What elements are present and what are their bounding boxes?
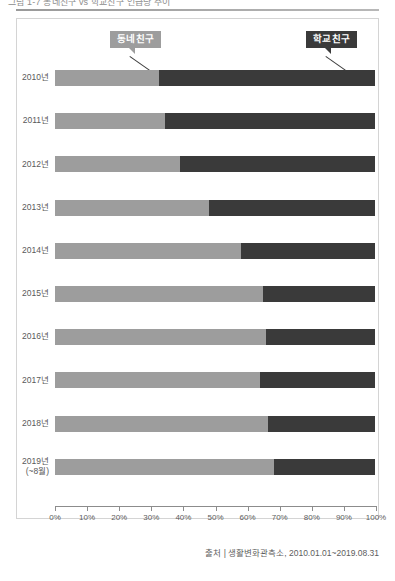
axis-tick [151, 506, 152, 511]
axis-tick [216, 506, 217, 511]
axis-tick [87, 506, 88, 511]
axis-tick [344, 506, 345, 511]
row-label-2012: 2012년 [17, 160, 49, 170]
bar-segment-school [180, 156, 375, 172]
chart-container: 동네친구 학교친구 2010년2011년2012년2013년2014년2015년… [16, 18, 379, 519]
axis-tick [55, 506, 56, 511]
bar-segment-neighbor [55, 113, 165, 129]
row-label-year: 2010년 [22, 72, 49, 82]
row-label-2013: 2013년 [17, 203, 49, 213]
row-label-2015: 2015년 [17, 289, 49, 299]
table-row: 2018년 [17, 416, 378, 432]
bar-segment-school [266, 329, 375, 345]
axis-tick-label: 60% [240, 513, 256, 522]
stacked-bar [55, 372, 375, 388]
row-label-year: 2012년 [22, 159, 49, 169]
axis-tick-label: 10% [79, 513, 95, 522]
row-label-sublabel: (~8월) [17, 467, 49, 477]
table-row: 2014년 [17, 243, 378, 259]
bar-segment-school [241, 243, 375, 259]
row-label-year: 2014년 [22, 245, 49, 255]
table-row: 2013년 [17, 200, 378, 216]
header-divider [16, 9, 379, 11]
axis-tick-label: 20% [111, 513, 127, 522]
stacked-bar [55, 70, 375, 86]
bar-segment-neighbor [55, 459, 274, 475]
top-heading-strip: 그림 1-7 동네친구 vs 학교친구 언급량 추이 [0, 0, 395, 6]
row-label-2010: 2010년 [17, 73, 49, 83]
row-label-year: 2019년 [22, 456, 49, 466]
axis-tick-label: 90% [336, 513, 352, 522]
table-row: 2019년(~8월) [17, 459, 378, 475]
row-label-year: 2017년 [22, 375, 49, 385]
legend-school-label: 학교친구 [313, 33, 350, 44]
bar-segment-school [165, 113, 375, 129]
table-row: 2017년 [17, 372, 378, 388]
stacked-bar [55, 286, 375, 302]
axis-tick [312, 506, 313, 511]
bar-segment-neighbor [55, 372, 260, 388]
bar-segment-neighbor [55, 156, 180, 172]
legend-neighbor-tail-icon [128, 47, 135, 54]
row-label-2017: 2017년 [17, 376, 49, 386]
axis-tick-label: 40% [175, 513, 191, 522]
bar-segment-neighbor [55, 70, 159, 86]
row-label-2011: 2011년 [17, 116, 49, 126]
table-row: 2016년 [17, 329, 378, 345]
bar-segment-neighbor [55, 286, 263, 302]
axis-tick [119, 506, 120, 511]
stacked-bar [55, 459, 375, 475]
row-label-2018: 2018년 [17, 419, 49, 429]
bar-segment-neighbor [55, 416, 268, 432]
bar-segment-school [209, 200, 375, 216]
stacked-bar [55, 200, 375, 216]
bar-segment-school [263, 286, 375, 302]
axis-tick [280, 506, 281, 511]
axis-tick-label: 100% [366, 513, 386, 522]
bar-segment-neighbor [55, 329, 266, 345]
row-label-year: 2016년 [22, 331, 49, 341]
bar-segment-neighbor [55, 243, 241, 259]
source-note: 출처 | 생활변화관측소, 2010.01.01~2019.08.31 [205, 546, 379, 558]
bar-segment-school [159, 70, 375, 86]
bar-segment-school [260, 372, 375, 388]
legend-school-friend: 학교친구 [306, 31, 357, 48]
axis-tick [183, 506, 184, 511]
axis-tick-label: 0% [49, 513, 61, 522]
row-label-2019: 2019년(~8월) [17, 457, 49, 477]
stacked-bar [55, 243, 375, 259]
stacked-bar [55, 329, 375, 345]
table-row: 2010년 [17, 70, 378, 86]
axis-tick [376, 506, 377, 511]
bar-segment-school [274, 459, 375, 475]
stacked-bar [55, 156, 375, 172]
row-label-year: 2013년 [22, 202, 49, 212]
row-label-year: 2018년 [22, 418, 49, 428]
table-row: 2011년 [17, 113, 378, 129]
legend-neighbor-label: 동네친구 [117, 33, 154, 44]
row-label-year: 2015년 [22, 288, 49, 298]
table-row: 2015년 [17, 286, 378, 302]
legend-neighbor-friend: 동네친구 [110, 31, 161, 48]
axis-tick [248, 506, 249, 511]
stacked-bar [55, 113, 375, 129]
x-axis: 0%10%20%30%40%50%60%70%80%90%100% [55, 506, 376, 507]
stacked-bar [55, 416, 375, 432]
axis-tick-label: 30% [143, 513, 159, 522]
bar-segment-neighbor [55, 200, 209, 216]
page-title: 그림 1-7 동네친구 vs 학교친구 언급량 추이 [8, 0, 170, 6]
axis-tick-label: 80% [304, 513, 320, 522]
bar-segment-school [268, 416, 375, 432]
row-label-2016: 2016년 [17, 332, 49, 342]
legend-school-tail-icon [324, 47, 331, 54]
row-label-2014: 2014년 [17, 246, 49, 256]
axis-tick-label: 50% [207, 513, 223, 522]
axis-tick-label: 70% [272, 513, 288, 522]
table-row: 2012년 [17, 156, 378, 172]
row-label-year: 2011년 [23, 115, 49, 125]
